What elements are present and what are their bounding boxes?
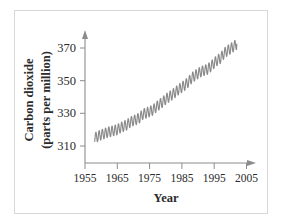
x-axis [85, 160, 256, 166]
co2-data-line [95, 40, 237, 141]
keeling-curve-chart: 370 350 330 310 1955 1965 1975 1985 1995… [0, 0, 285, 224]
x-axis-arrow-icon [247, 160, 256, 166]
y-tick-labels: 370 350 330 310 [57, 41, 76, 153]
x-tick-label-1955: 1955 [74, 172, 97, 184]
y-axis-title: Carbon dioxide (parts per million) [22, 51, 53, 149]
x-tick-marks [85, 163, 247, 169]
y-tick-label-330: 330 [57, 106, 76, 120]
x-tick-labels: 1955 1965 1975 1985 1995 2005 [74, 172, 259, 184]
y-axis-title-line2: (parts per million) [39, 51, 53, 149]
y-axis-arrow-icon [82, 30, 88, 39]
x-tick-label-1965: 1965 [106, 172, 129, 184]
x-axis-title: Year [154, 191, 179, 205]
y-tick-label-310: 310 [57, 139, 76, 153]
y-tick-label-350: 350 [57, 74, 76, 88]
y-axis-title-line1: Carbon dioxide [22, 58, 36, 141]
x-tick-label-1985: 1985 [170, 172, 193, 184]
x-tick-label-1995: 1995 [203, 172, 226, 184]
x-tick-label-2005: 2005 [235, 172, 258, 184]
y-tick-marks [80, 48, 85, 146]
chart-screenshot: 370 350 330 310 1955 1965 1975 1985 1995… [0, 0, 285, 224]
x-tick-label-1975: 1975 [138, 172, 161, 184]
y-axis [82, 30, 88, 163]
y-tick-label-370: 370 [57, 41, 76, 55]
